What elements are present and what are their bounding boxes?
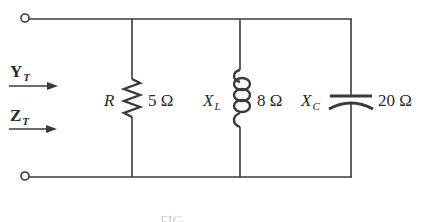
inductor-value-label: 8 Ω xyxy=(257,92,282,109)
capacitor-symbol-label: XC xyxy=(301,92,320,109)
admittance-subscript: T xyxy=(23,71,30,83)
impedance-label: ZT xyxy=(10,107,29,124)
bottom-terminal xyxy=(21,172,29,180)
resistor-symbol-label: R xyxy=(104,92,114,109)
resistor-branch xyxy=(124,19,140,177)
capacitor-subscript: C xyxy=(312,100,319,112)
top-terminal xyxy=(21,14,29,22)
impedance-arrow-icon xyxy=(9,125,57,133)
figure-caption: FIG. xyxy=(160,214,186,222)
inductor-branch xyxy=(234,19,250,177)
admittance-arrow-icon xyxy=(9,82,58,90)
impedance-subscript: T xyxy=(22,115,29,127)
inductor-icon xyxy=(234,70,250,127)
resistor-value-label: 5 Ω xyxy=(148,92,173,109)
inductor-subscript: L xyxy=(214,100,220,112)
capacitor-branch xyxy=(329,19,373,177)
admittance-label: YT xyxy=(10,63,30,80)
inductor-symbol-label: XL xyxy=(203,92,221,109)
resistor-icon xyxy=(124,79,140,117)
capacitor-value-label: 20 Ω xyxy=(378,92,412,109)
